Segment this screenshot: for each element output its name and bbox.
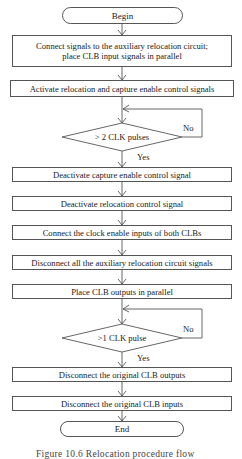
step-text: Disconnect the original CLB outputs bbox=[59, 370, 186, 380]
step-text-line-1: Connect signals to the auxiliary relocat… bbox=[36, 41, 208, 51]
step-text-line-2: place CLB input signals in parallel bbox=[62, 51, 182, 61]
step-text: Connect the clock enable inputs of both … bbox=[43, 228, 202, 238]
step-text: Disconnect the original CLB inputs bbox=[61, 399, 183, 409]
step-place-outputs-parallel: Place CLB outputs in parallel bbox=[12, 284, 232, 299]
end-label: End bbox=[115, 424, 130, 434]
step-connect-aux-signals: Connect signals to the auxiliary relocat… bbox=[12, 35, 232, 67]
step-connect-clock-enable: Connect the clock enable inputs of both … bbox=[12, 225, 232, 240]
decision-1-yes-label: Yes bbox=[137, 152, 150, 162]
decision-text: > 2 CLK pulses bbox=[95, 132, 149, 142]
end-terminator: End bbox=[60, 421, 184, 437]
decision-2-yes-label: Yes bbox=[137, 353, 150, 363]
step-activate-relocation: Activate relocation and capture enable c… bbox=[10, 80, 234, 97]
decision-gt2-clk-pulses: > 2 CLK pulses bbox=[62, 132, 182, 142]
step-disconnect-original-inputs: Disconnect the original CLB inputs bbox=[12, 396, 232, 411]
decision-1-no-label: No bbox=[183, 123, 194, 133]
begin-label: Begin bbox=[112, 11, 134, 21]
figure-caption: Figure 10.6 Relocation procedure flow bbox=[36, 449, 195, 459]
step-text: Activate relocation and capture enable c… bbox=[30, 84, 215, 94]
begin-terminator: Begin bbox=[62, 7, 183, 24]
step-disconnect-original-outputs: Disconnect the original CLB outputs bbox=[12, 367, 232, 382]
step-text: Deactivate relocation control signal bbox=[61, 199, 183, 209]
step-text: Disconnect all the auxiliary relocation … bbox=[31, 258, 212, 268]
decision-text: >1 CLK pulse bbox=[98, 333, 147, 343]
step-text: Place CLB outputs in parallel bbox=[71, 287, 173, 297]
step-disconnect-aux-signals: Disconnect all the auxiliary relocation … bbox=[12, 255, 232, 270]
decision-gt1-clk-pulse: >1 CLK pulse bbox=[62, 333, 182, 343]
decision-2-no-label: No bbox=[183, 324, 194, 334]
step-deactivate-relocation: Deactivate relocation control signal bbox=[12, 196, 232, 211]
step-deactivate-capture: Deactivate capture enable control signal bbox=[12, 167, 232, 182]
step-text: Deactivate capture enable control signal bbox=[53, 170, 191, 180]
